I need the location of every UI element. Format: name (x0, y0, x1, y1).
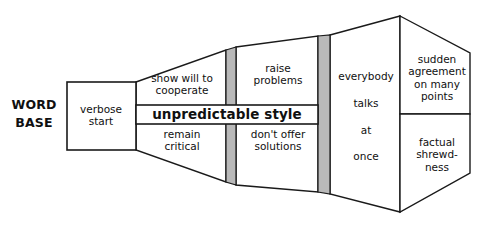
diagram-vector-layer (0, 0, 500, 226)
unpredictable-style-banner-shape (136, 105, 318, 124)
stage-4-upper-shape (400, 16, 470, 114)
stage-2-upper-shape (236, 36, 318, 113)
stage-3-shape (330, 16, 400, 212)
gray-bar-2-shape (318, 35, 330, 194)
verbose-start-shape (67, 82, 136, 150)
stage-2-lower-shape (236, 116, 318, 192)
stage-1-upper-shape (136, 50, 226, 113)
diagram-canvas: WORD BASE verbose start show will to coo… (0, 0, 500, 226)
stage-1-lower-shape (136, 116, 226, 182)
stage-4-lower-shape (400, 114, 470, 212)
